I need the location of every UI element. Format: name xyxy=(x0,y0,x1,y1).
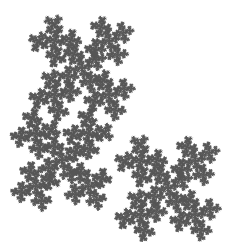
fractal-image xyxy=(0,0,242,242)
fractal-canvas xyxy=(0,0,242,242)
